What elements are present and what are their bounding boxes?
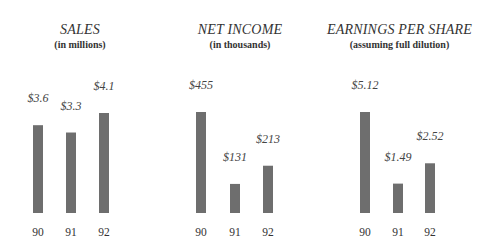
data-label: $213 — [256, 132, 280, 146]
bar-91 — [230, 184, 240, 213]
x-tick-label: 90 — [195, 226, 207, 238]
bar-91 — [66, 133, 76, 213]
x-tick-label: 92 — [262, 226, 274, 238]
data-label: $3.6 — [28, 91, 49, 105]
net-income-plot: $45590$13191$21392 — [160, 0, 320, 250]
x-tick-label: 92 — [98, 226, 110, 238]
bar-92 — [99, 113, 109, 213]
data-label: $455 — [189, 78, 213, 92]
x-tick-label: 90 — [359, 226, 371, 238]
data-label: $4.1 — [94, 79, 115, 93]
bar-90 — [360, 112, 370, 213]
net-income-chart: NET INCOME (in thousands) $45590$13191$2… — [160, 0, 320, 250]
bar-90 — [33, 125, 43, 213]
data-label: $2.52 — [417, 129, 444, 143]
x-tick-label: 91 — [392, 226, 404, 238]
sales-plot: $3.690$3.391$4.192 — [0, 0, 160, 250]
sales-chart: SALES (in millions) $3.690$3.391$4.192 — [0, 0, 160, 250]
x-tick-label: 91 — [229, 226, 241, 238]
bar-90 — [196, 112, 206, 213]
bar-92 — [425, 163, 435, 213]
data-label: $3.3 — [61, 99, 82, 113]
data-label: $131 — [223, 150, 247, 164]
x-tick-label: 90 — [32, 226, 44, 238]
data-label: $5.12 — [352, 78, 379, 92]
eps-plot: $5.1290$1.4991$2.5292 — [320, 0, 479, 250]
x-tick-label: 91 — [65, 226, 77, 238]
eps-chart: EARNINGS PER SHARE (assuming full diluti… — [320, 0, 479, 250]
bar-92 — [263, 166, 273, 213]
x-tick-label: 92 — [424, 226, 436, 238]
bar-91 — [393, 184, 403, 213]
data-label: $1.49 — [385, 150, 412, 164]
